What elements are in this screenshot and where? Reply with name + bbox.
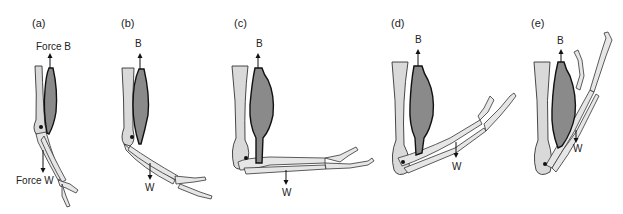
force-w-label-a: Force W [16,175,54,186]
panel-label-e: (e) [531,17,544,29]
arrowhead-down-icon [148,175,153,180]
panel-label-a: (a) [32,17,45,29]
elbow-pivot-b [130,135,134,139]
panel-label-b: (b) [121,17,134,29]
biceps-muscle-b [133,69,149,144]
arrowhead-down-icon [41,168,46,173]
panel-b: (b) B W [121,17,212,199]
biceps-muscle-c [250,68,274,163]
humerus-e [534,62,552,175]
thumb-c [325,147,358,162]
elbow-lever-diagram: (a) Force B Force W (b) B [0,0,623,214]
panel-c: (c) B W [232,17,374,198]
thumb-e [574,50,584,90]
arrowhead-up-icon [48,53,53,58]
elbow-pivot-d [401,160,405,164]
force-b-label-c: B [256,38,263,49]
panel-label-d: (d) [391,17,404,29]
force-b-label-a: Force B [36,41,71,52]
radius-b [128,146,178,180]
arrowhead-down-icon [284,180,289,185]
force-w-label-b: W [145,182,155,193]
arrowhead-up-icon [559,49,564,54]
fingers-b [178,184,212,199]
panel-label-c: (c) [234,17,247,29]
panel-e: (e) B W [531,17,612,175]
arrowhead-down-icon [454,153,459,158]
panel-d: (d) B W [391,17,516,175]
force-b-label-d: B [415,34,422,45]
force-w-label-e: W [573,143,583,154]
force-w-label-d: W [452,161,462,172]
arrowhead-up-icon [256,53,261,58]
humerus-c [232,66,249,169]
force-b-label-e: B [557,35,564,46]
hand-b [175,176,206,184]
biceps-muscle-d [410,66,434,155]
arrowhead-up-icon [138,53,143,58]
elbow-pivot-a [39,125,43,129]
arrowhead-up-icon [416,49,421,54]
biceps-muscle-a [44,68,56,134]
hand-a [58,180,78,193]
elbow-pivot-c [244,156,248,160]
elbow-pivot-e [543,162,547,166]
panel-a: (a) Force B Force W [16,17,78,207]
force-w-label-c: W [282,187,292,198]
humerus-b [122,68,134,146]
force-b-label-b: B [135,38,142,49]
fingers-e [590,32,612,92]
